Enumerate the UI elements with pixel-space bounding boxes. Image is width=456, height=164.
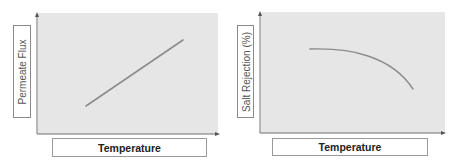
x-axis-arrow-icon [441,131,446,135]
x-axis-label: Temperature [98,142,161,154]
y-axis-label-box: Salt Rejection (%) [237,25,254,118]
chart-permeate-flux: Permeate Flux Temperature [0,0,228,164]
x-axis-label-box: Temperature [52,138,207,157]
y-axis-arrow-icon [258,11,262,16]
x-axis-arrow-icon [215,132,220,136]
y-axis-label-box: Permeate Flux [13,25,31,118]
y-axis-label: Salt Rejection (%) [240,31,251,111]
permeate-flux-line [86,40,183,106]
salt-rejection-curve [310,49,413,89]
x-axis-label: Temperature [319,141,382,153]
y-axis-label: Permeate Flux [17,39,28,104]
chart-salt-rejection: Salt Rejection (%) Temperature [228,0,456,164]
x-axis-label-box: Temperature [272,138,428,156]
y-axis-arrow-icon [35,12,39,17]
